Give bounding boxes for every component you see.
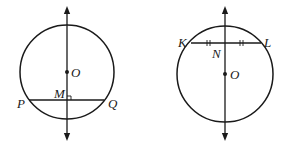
- label-l: L: [263, 35, 271, 50]
- left-figure: O M P Q: [16, 10, 118, 137]
- right-figure: O N K L: [177, 10, 273, 137]
- center-point-o-right: [223, 72, 227, 76]
- label-q: Q: [108, 96, 118, 111]
- label-p: P: [16, 96, 25, 111]
- label-k: K: [177, 35, 188, 50]
- label-o-left: O: [71, 65, 81, 80]
- center-point-o-left: [65, 70, 69, 74]
- label-m: M: [53, 86, 66, 101]
- diagram-canvas: O M P Q O N K L: [0, 0, 286, 148]
- label-o-right: O: [230, 67, 240, 82]
- label-n: N: [211, 46, 222, 61]
